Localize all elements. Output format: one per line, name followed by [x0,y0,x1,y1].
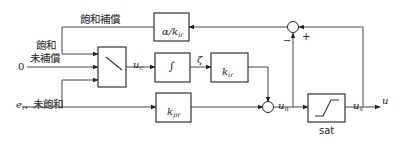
label-uc: uc [133,55,143,72]
label-un: un [278,96,289,113]
label-zero-input: 0 [18,62,24,72]
anti-windup-gain-label: α/kir [162,22,183,39]
label-error-signal: er, 未飽和 [16,95,63,112]
label-saturation-compensation: 飽和補償 [80,14,120,25]
label-us: us [353,96,363,113]
saturation-caption: sat [319,126,334,136]
label-not-compensated: 未補償 [30,53,60,64]
summing-junction-top [288,22,299,33]
proportional-gain-label: kpr [167,102,180,119]
integrator-symbol: ∫ [169,61,175,72]
switch-block [98,47,126,87]
label-u-output: u [382,96,388,106]
sign-minus: − [283,36,291,46]
label-zeta: ζ [197,55,202,65]
wire-error-to-switch [62,80,98,107]
summing-junction-bottom [263,102,274,113]
integral-gain-label: kir [222,62,233,79]
sign-plus: + [302,32,310,42]
block-diagram [0,0,400,141]
wire-kir-to-sj [248,67,268,102]
label-saturated: 飽和 [36,40,56,51]
